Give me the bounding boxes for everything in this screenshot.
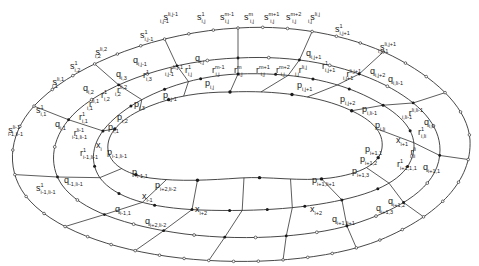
- open-point: [401, 228, 404, 231]
- open-point: [86, 235, 89, 238]
- spoke-s-q: [404, 203, 424, 217]
- filled-point: [438, 154, 441, 157]
- open-point: [444, 91, 447, 94]
- label-r_i+1_1: r1i+1,1,1: [397, 158, 417, 171]
- open-point: [254, 236, 257, 239]
- label-s_ij_lij: sli,ji,j: [308, 11, 320, 24]
- label-p_i+1_li+1: pi+1,li+1: [312, 175, 335, 187]
- label-s_ij+1_l: sli,j+1i,j+1: [378, 41, 396, 54]
- open-point: [110, 243, 113, 246]
- label-r_i2_l: rli,2i,2: [115, 84, 127, 97]
- spoke-s-q: [15, 175, 58, 177]
- open-point: [134, 249, 137, 252]
- label-s_i2_1: s1i,2: [70, 60, 80, 73]
- spoke-s-q: [440, 155, 469, 159]
- label-s_ij_m: smi,j: [244, 11, 254, 24]
- filled-point: [311, 77, 314, 80]
- label-q_i1: qi,1: [55, 119, 66, 131]
- label-s_ij_m-1: sm-1i,j: [220, 11, 234, 24]
- label-q_ij+2: qi,j+2: [370, 66, 385, 78]
- label-p_i+2_li-2: pi+2,li-2: [155, 180, 176, 192]
- open-point: [404, 62, 407, 65]
- label-p_ij: pi,j: [205, 78, 214, 90]
- filled-point: [303, 205, 306, 208]
- point-labels: sli,j-1i,j-1s1i,jsm-1i,jsmi,jsm+1i,jsm+2…: [8, 11, 440, 228]
- spoke-q-x: [383, 103, 413, 105]
- open-point: [139, 44, 142, 47]
- open-point: [331, 252, 334, 255]
- label-r_ij_m: rmi,j: [234, 64, 243, 77]
- filled-point: [56, 176, 59, 179]
- label-r_ij_lij: rli,ji,j: [295, 64, 307, 77]
- label-r_i3_1: r1i,3: [143, 69, 152, 82]
- open-point: [183, 257, 186, 260]
- label-q_i-1_1: qi-1,1: [115, 204, 131, 216]
- open-point: [335, 35, 338, 38]
- filled-point: [350, 109, 353, 112]
- open-point: [467, 158, 470, 161]
- spoke-s-q: [65, 215, 104, 227]
- filled-point: [129, 105, 132, 108]
- spoke-s-q: [283, 236, 286, 260]
- label-s_i-1_1: s1i-1,li-1: [36, 182, 56, 195]
- filled-point: [285, 235, 288, 238]
- open-point: [315, 231, 318, 234]
- filled-point: [237, 57, 240, 60]
- label-r_ili_l: rlii,li: [410, 146, 416, 159]
- open-point: [212, 29, 215, 32]
- label-r_i1_1: r1i,1: [79, 111, 88, 124]
- label-r_ij_m+1: rm+1i,j: [256, 64, 270, 77]
- open-point: [237, 27, 240, 30]
- label-s_ij_1: s1i,j: [197, 11, 206, 24]
- filled-point: [376, 156, 379, 159]
- open-point: [282, 259, 285, 262]
- open-point: [76, 199, 79, 202]
- open-point: [64, 225, 67, 228]
- open-point: [311, 30, 314, 33]
- label-p_ij-1: pi,j-1: [163, 90, 177, 102]
- open-point: [468, 134, 471, 137]
- filled-point: [103, 213, 106, 216]
- label-q_i-1_li-1: q-1,li-1: [64, 175, 83, 187]
- label-s_ij_m+2: sm+2i,j: [286, 11, 301, 24]
- label-q_ili-1: qi,li-1: [388, 74, 403, 86]
- filled-point: [228, 90, 231, 93]
- open-point: [441, 200, 444, 203]
- label-s_i_j-1: sli,j-1i,j-1: [160, 11, 178, 24]
- label-x_i+1: xi+1: [396, 135, 408, 147]
- label-q_ij-1: qi,j-1: [133, 55, 147, 67]
- filled-point: [223, 236, 226, 239]
- label-p_i2: pi,2: [117, 112, 128, 124]
- label-q_i+2_li-2: qi+2,li-2: [145, 216, 166, 228]
- filled-point: [258, 176, 261, 179]
- label-p_i1: pi,1: [108, 122, 119, 134]
- open-point: [206, 59, 209, 62]
- open-point: [208, 259, 211, 262]
- label-q_i+1_li+1: qi+1,li+1: [332, 214, 355, 226]
- label-s_i2_l: sli,2i,2: [95, 46, 107, 59]
- filled-point: [298, 59, 301, 62]
- filled-point: [117, 192, 120, 195]
- open-point: [193, 234, 196, 237]
- spoke-x-p: [366, 168, 389, 184]
- spoke-s-q: [135, 231, 163, 251]
- label-p_ili-1: pi,li-1: [362, 104, 377, 116]
- open-point: [386, 85, 389, 88]
- spoke-s-q: [347, 226, 356, 248]
- open-point: [422, 216, 425, 219]
- label-s_ij_m+1: sm+1i,j: [264, 11, 279, 24]
- label-s_i1_1: s1i,j-1: [140, 29, 153, 42]
- open-point: [116, 53, 119, 56]
- open-point: [355, 247, 358, 250]
- filled-point: [348, 87, 351, 90]
- label-x_i+2_left: xi+2: [195, 204, 207, 216]
- spoke-x-p: [291, 179, 293, 208]
- open-point: [33, 105, 36, 108]
- open-point: [306, 256, 309, 259]
- open-point: [286, 27, 289, 30]
- spoke-x-p: [184, 82, 189, 97]
- open-point: [132, 223, 135, 226]
- open-point: [12, 149, 15, 152]
- label-r_i2_1: r1i,2: [101, 89, 110, 102]
- label-p_ij+2: pi,j+2: [340, 94, 355, 106]
